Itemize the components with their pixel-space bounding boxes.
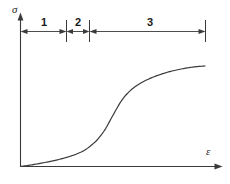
region-2-label: 2 bbox=[75, 16, 81, 28]
x-axis-arrowhead bbox=[215, 164, 223, 170]
region-1-right-arrowhead bbox=[60, 29, 67, 34]
stress-strain-figure: σ ε 1 2 3 bbox=[0, 0, 230, 184]
y-axis-label: σ bbox=[12, 3, 18, 15]
stress-strain-curve bbox=[21, 66, 206, 167]
region-3-label: 3 bbox=[147, 16, 153, 28]
region-1-label: 1 bbox=[41, 16, 47, 28]
axes-group bbox=[18, 13, 223, 170]
figure-canvas: σ ε 1 2 3 bbox=[0, 0, 230, 184]
x-axis-label: ε bbox=[206, 145, 211, 157]
region-2-right-arrowhead bbox=[83, 29, 90, 34]
y-axis-arrowhead bbox=[18, 13, 24, 21]
region-3-dimension: 3 bbox=[90, 16, 206, 34]
region-1-left-arrowhead bbox=[21, 29, 28, 34]
region-2-dimension: 2 bbox=[67, 16, 90, 34]
region-2-left-arrowhead bbox=[67, 29, 74, 34]
region-3-right-arrowhead bbox=[199, 29, 206, 34]
region-1-dimension: 1 bbox=[21, 16, 67, 34]
region-3-left-arrowhead bbox=[90, 29, 97, 34]
